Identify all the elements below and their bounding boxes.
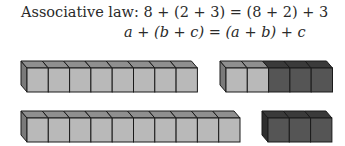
- light-cube: [91, 118, 112, 142]
- dark-cube: [311, 68, 332, 92]
- light-cube: [134, 118, 155, 142]
- cube-diagram: [0, 0, 345, 146]
- cube-group-eight: [21, 61, 197, 92]
- dark-cube: [268, 118, 289, 142]
- light-cube: [112, 68, 133, 92]
- light-cube: [27, 118, 48, 142]
- light-cube: [91, 68, 112, 92]
- cube-group-two-plus-three: [220, 61, 333, 92]
- cube-group-eight-plus-two: [21, 111, 240, 142]
- light-cube: [176, 68, 197, 92]
- light-cube: [27, 68, 48, 92]
- light-cube: [219, 118, 240, 142]
- dark-cube: [311, 118, 332, 142]
- light-cube: [155, 68, 176, 92]
- light-cube: [70, 118, 91, 142]
- light-cube: [48, 68, 69, 92]
- light-cube: [70, 68, 91, 92]
- light-cube: [247, 68, 268, 92]
- light-cube: [48, 118, 69, 142]
- light-cube: [197, 118, 218, 142]
- dark-cube: [269, 68, 290, 92]
- light-cube: [134, 68, 155, 92]
- light-cube: [155, 118, 176, 142]
- light-cube: [176, 118, 197, 142]
- dark-cube: [290, 68, 311, 92]
- light-cube: [112, 118, 133, 142]
- light-cube: [226, 68, 247, 92]
- dark-cube: [289, 118, 310, 142]
- cube-group-three: [262, 111, 332, 142]
